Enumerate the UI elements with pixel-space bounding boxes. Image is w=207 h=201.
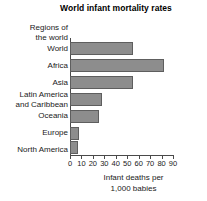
category-label-europe: Europe [2, 128, 68, 137]
bar-chart: World infant mortality rates Regions of … [0, 0, 207, 201]
category-label-oceania: Oceania [2, 111, 68, 120]
category-label-africa: Africa [2, 61, 68, 70]
bar-world [70, 42, 133, 55]
x-tick-label-90: 90 [165, 159, 181, 168]
category-label-world: World [2, 44, 68, 53]
bar-oceania [70, 110, 99, 123]
category-label-latin-america: Latin America and Caribbean [2, 90, 68, 109]
x-axis-caption: Infant deaths per 1,000 babies [60, 173, 207, 194]
x-axis-caption-line-2: 1,000 babies [60, 184, 207, 195]
bar-europe [70, 127, 79, 140]
category-axis-heading-line-2: the world [2, 33, 68, 43]
category-axis-heading: Regions of the world [2, 23, 68, 42]
category-label-asia: Asia [2, 78, 68, 87]
category-label-latin-america-line-1: Latin America [2, 90, 68, 100]
bar-north-america [70, 141, 78, 154]
chart-title: World infant mortality rates [28, 3, 204, 13]
bar-latin-america [70, 93, 102, 106]
category-label-north-america: North America [2, 145, 68, 154]
bar-asia [70, 76, 133, 89]
x-axis-caption-line-1: Infant deaths per [60, 173, 207, 184]
x-axis-line [70, 155, 174, 156]
bar-africa [70, 59, 164, 72]
plot-area [70, 41, 173, 155]
category-label-latin-america-line-2: and Caribbean [2, 100, 68, 110]
category-axis-heading-line-1: Regions of [2, 23, 68, 33]
